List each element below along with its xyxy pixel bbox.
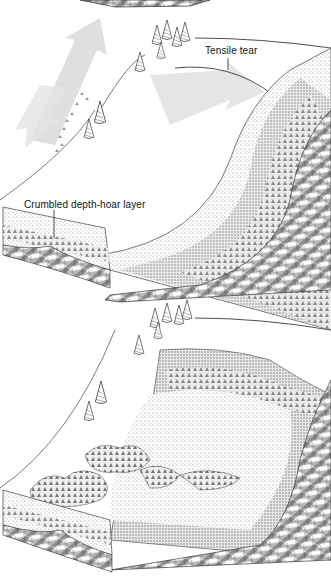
panel-bottom [0,300,331,572]
top-block-remnant [80,0,210,7]
panel-top [0,18,331,330]
tensile-tear-label: Tensile tear [205,45,257,56]
arrow-slab [150,60,265,125]
depth-hoar-label: Crumbled depth-hoar layer [24,199,145,210]
avalanche-diagram [0,0,331,576]
